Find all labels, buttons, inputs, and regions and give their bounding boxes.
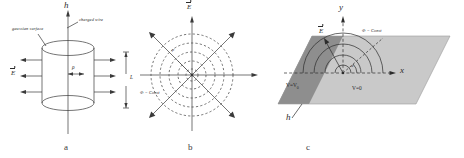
panel-a-axis-label: h <box>64 1 69 10</box>
panel-a-length-label: L <box>130 75 133 80</box>
wire-axis-arrowhead <box>66 10 70 17</box>
panel-a-letter: a <box>64 142 68 152</box>
panel-c-plane-view: y x E Φ = Const V=V0 V=0 h α c <box>278 0 464 158</box>
potential-high-label: V=V0 <box>286 83 299 90</box>
charged-wire-leader <box>67 22 78 28</box>
field-arrows-right <box>94 58 116 94</box>
panel-c-angle-label: α <box>351 64 353 68</box>
gaussian-surface-label: gaussian surface <box>12 27 43 31</box>
potential-zero-label: V=0 <box>352 86 362 91</box>
panel-c-depth-label: h <box>286 113 291 122</box>
panel-c-field-label: E <box>319 28 323 35</box>
panel-b-drawing <box>140 0 285 158</box>
panel-c-equipotential-label: Φ = Const <box>362 29 382 33</box>
panel-c-letter: c <box>306 142 310 152</box>
panel-c-drawing <box>278 0 464 158</box>
panel-b-cross-section: E Φ = Const ρ b <box>140 0 285 158</box>
panel-c-origin-dot <box>342 72 344 74</box>
y-axis-arrowhead <box>341 16 345 23</box>
panel-a-radius-label: ρ <box>72 65 75 70</box>
radius-arrowhead-left <box>68 72 73 76</box>
panel-b-equipotential-label: Φ = Const <box>140 91 160 95</box>
depth-edge-line <box>292 104 302 118</box>
panel-c-y-axis-label: y <box>339 3 343 12</box>
panel-b-radius-label: ρ <box>172 48 174 52</box>
panel-a-drawing <box>0 0 150 158</box>
panel-b-letter: b <box>188 142 193 152</box>
length-dimension <box>123 52 129 108</box>
panel-a-field-label: E <box>11 70 15 77</box>
panel-a-gaussian-cylinder: h charged wire gaussian surface E ρ L a <box>0 0 150 158</box>
panel-c-x-axis-label: x <box>400 66 404 75</box>
radius-arrowhead-right <box>79 72 84 76</box>
panel-b-field-label: E <box>187 4 191 11</box>
panel-b-horizontal-arrowhead <box>252 73 259 77</box>
charged-wire-label: charged wire <box>79 18 103 22</box>
panel-b-vertical-arrowhead <box>190 16 194 23</box>
field-arrows-left <box>20 58 42 94</box>
gaussian-surface-leader <box>38 34 46 46</box>
figure-charged-wire-field: h charged wire gaussian surface E ρ L a <box>0 0 464 158</box>
